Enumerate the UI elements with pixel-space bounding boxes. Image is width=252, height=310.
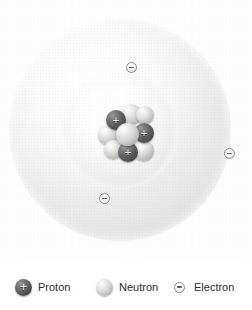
legend-label-electron: Electron — [194, 282, 234, 293]
neutron-sphere-icon — [96, 279, 113, 296]
legend-item-electron: Electron — [171, 276, 234, 298]
legend-item-proton: + Proton — [15, 276, 70, 298]
electron-charge-icon — [227, 153, 232, 154]
electron-inner-bottom — [99, 193, 110, 204]
legend-label-proton: Proton — [38, 282, 70, 293]
nucleus: + + + — [96, 104, 158, 166]
legend-label-neutron: Neutron — [119, 282, 158, 293]
legend: + Proton Neutron Electron — [0, 270, 252, 304]
atom-diagram: + + + + Proton Neutron — [0, 0, 252, 310]
neutron-particle — [116, 123, 139, 146]
electron-inner-top — [126, 62, 137, 73]
electron-charge-icon — [129, 67, 134, 68]
proton-charge-label: + — [15, 279, 32, 296]
legend-item-neutron: Neutron — [96, 276, 158, 298]
neutron-particle — [136, 106, 154, 124]
electron-charge-icon — [177, 286, 182, 287]
proton-sphere-icon: + — [15, 279, 32, 296]
electron-charge-icon — [102, 198, 107, 199]
electron-circle-icon — [174, 282, 185, 293]
electron-outer-right — [224, 148, 235, 159]
